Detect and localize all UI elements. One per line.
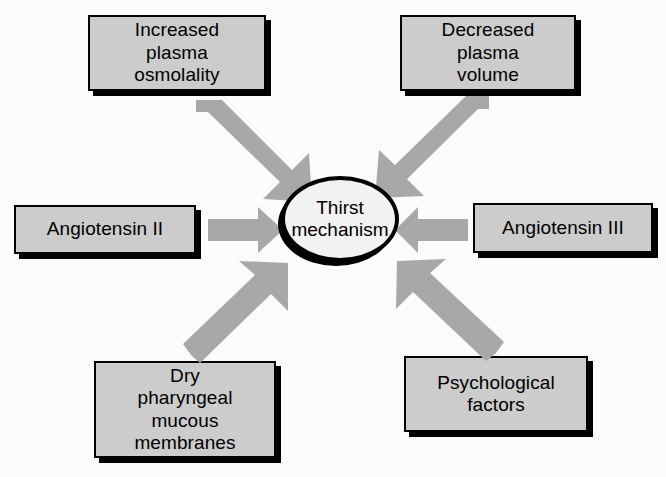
node-label: Dry pharyngeal mucous membranes (134, 365, 235, 455)
node-label: Angiotensin III (502, 217, 624, 239)
node-dry-pharyngeal-mucous-membranes[interactable]: Dry pharyngeal mucous membranes (94, 361, 276, 458)
node-label: Angiotensin II (47, 218, 164, 240)
node-angiotensin-ii[interactable]: Angiotensin II (14, 205, 196, 254)
node-label: Increased plasma osmolality (134, 19, 219, 86)
node-decreased-plasma-volume[interactable]: Decreased plasma volume (400, 15, 576, 91)
arrow-membranes-to-hub (183, 261, 288, 363)
arrow-angiotensin-ii-to-hub (208, 207, 283, 253)
arrow-psychological-to-hub (396, 259, 504, 361)
arrow-angiotensin-iii-to-hub (395, 207, 468, 253)
node-label: Psychological factors (437, 372, 554, 417)
node-angiotensin-iii[interactable]: Angiotensin III (473, 203, 653, 253)
node-label: Decreased plasma volume (442, 19, 535, 86)
arrow-volume-to-hub (375, 96, 489, 198)
hub-label: Thirst mechanism (291, 197, 388, 241)
node-increased-plasma-osmolality[interactable]: Increased plasma osmolality (88, 15, 266, 91)
arrow-osmolality-to-hub (196, 100, 312, 202)
thirst-mechanism-diagram: Thirst mechanism Increased plasma osmola… (0, 0, 666, 477)
hub-thirst-mechanism[interactable]: Thirst mechanism (281, 176, 399, 262)
node-psychological-factors[interactable]: Psychological factors (404, 356, 588, 432)
